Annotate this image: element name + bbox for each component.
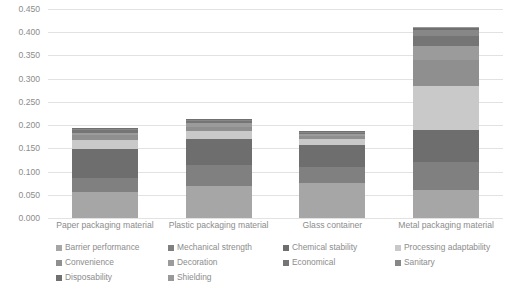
legend-label: Sanitary xyxy=(404,258,435,266)
stacked-bar[interactable] xyxy=(299,131,365,218)
y-axis-tick-label: 0.200 xyxy=(18,120,40,130)
x-axis-category-labels: Paper packaging materialPlastic packagin… xyxy=(48,220,503,236)
bar-segment[interactable] xyxy=(413,162,479,190)
bar-segment[interactable] xyxy=(413,36,479,46)
legend-item[interactable]: Disposability xyxy=(56,273,168,281)
bar-group xyxy=(162,9,276,218)
legend-item[interactable]: Decoration xyxy=(168,258,283,266)
bar-segment[interactable] xyxy=(413,190,479,218)
bar-segment[interactable] xyxy=(72,192,138,218)
y-axis-tick-label: 0.050 xyxy=(18,190,40,200)
y-axis-tick-label: 0.100 xyxy=(18,167,40,177)
bar-segment[interactable] xyxy=(186,186,252,219)
y-axis-tick-label: 0.250 xyxy=(18,97,40,107)
x-axis-tick-label: Paper packaging material xyxy=(56,220,153,230)
gridline xyxy=(48,218,503,219)
legend-swatch-icon xyxy=(395,260,401,266)
legend-item[interactable]: Mechanical strength xyxy=(168,243,283,251)
legend-label: Convenience xyxy=(65,258,114,266)
bar-segment[interactable] xyxy=(299,167,365,183)
bar-segment[interactable] xyxy=(72,140,138,149)
chart-legend: Barrier performanceMechanical strengthCh… xyxy=(0,240,509,285)
legend-row: DisposabilityShielding xyxy=(0,270,509,285)
legend-label: Barrier performance xyxy=(65,243,139,251)
bar-segment[interactable] xyxy=(413,60,479,86)
y-axis-tick-label: 0.350 xyxy=(18,50,40,60)
bar-segment[interactable] xyxy=(186,165,252,186)
legend-swatch-icon xyxy=(168,245,174,251)
bar-segment[interactable] xyxy=(72,149,138,178)
stacked-bar[interactable] xyxy=(413,27,479,218)
legend-row: ConvenienceDecorationEconomicalSanitary xyxy=(0,255,509,270)
legend-label: Economical xyxy=(292,258,335,266)
bar-segment[interactable] xyxy=(186,131,252,139)
legend-label: Shielding xyxy=(177,273,211,281)
legend-swatch-icon xyxy=(283,245,289,251)
bar-segment[interactable] xyxy=(299,183,365,218)
legend-item[interactable]: Chemical stability xyxy=(283,243,395,251)
legend-swatch-icon xyxy=(395,245,401,251)
bar-segment[interactable] xyxy=(413,130,479,163)
y-axis-tick-label: 0.300 xyxy=(18,74,40,84)
bar-series-container xyxy=(48,9,503,218)
legend-label: Disposability xyxy=(65,273,112,281)
y-axis-tick-label: 0.000 xyxy=(18,213,40,223)
y-axis-tick-label: 0.150 xyxy=(18,143,40,153)
y-axis: 0.0000.0500.1000.1500.2000.2500.3000.350… xyxy=(0,9,44,218)
legend-swatch-icon xyxy=(168,260,174,266)
legend-swatch-icon xyxy=(168,275,174,281)
bar-group xyxy=(48,9,162,218)
legend-label: Processing adaptability xyxy=(404,243,490,251)
stacked-bar-chart: 0.0000.0500.1000.1500.2000.2500.3000.350… xyxy=(0,0,509,300)
legend-item[interactable]: Convenience xyxy=(56,258,168,266)
legend-swatch-icon xyxy=(56,260,62,266)
bar-segment[interactable] xyxy=(72,178,138,192)
y-axis-tick-label: 0.400 xyxy=(18,27,40,37)
stacked-bar[interactable] xyxy=(72,128,138,218)
legend-swatch-icon xyxy=(56,275,62,281)
bar-segment[interactable] xyxy=(186,139,252,165)
legend-label: Chemical stability xyxy=(292,243,357,251)
bar-group xyxy=(276,9,390,218)
legend-row: Barrier performanceMechanical strengthCh… xyxy=(0,240,509,255)
x-axis-tick-label: Glass container xyxy=(303,220,363,230)
x-axis-tick-label: Metal packaging material xyxy=(398,220,494,230)
bar-segment[interactable] xyxy=(413,86,479,130)
stacked-bar[interactable] xyxy=(186,119,252,218)
x-axis-tick-label: Plastic packaging material xyxy=(169,220,269,230)
legend-swatch-icon xyxy=(283,260,289,266)
legend-item[interactable]: Shielding xyxy=(168,273,283,281)
bar-group xyxy=(389,9,503,218)
bar-segment[interactable] xyxy=(413,46,479,60)
y-axis-tick-label: 0.450 xyxy=(18,4,40,14)
legend-item[interactable]: Barrier performance xyxy=(56,243,168,251)
bar-segment[interactable] xyxy=(299,145,365,167)
legend-item[interactable]: Economical xyxy=(283,258,395,266)
legend-label: Mechanical strength xyxy=(177,243,252,251)
legend-label: Decoration xyxy=(177,258,218,266)
legend-swatch-icon xyxy=(56,245,62,251)
